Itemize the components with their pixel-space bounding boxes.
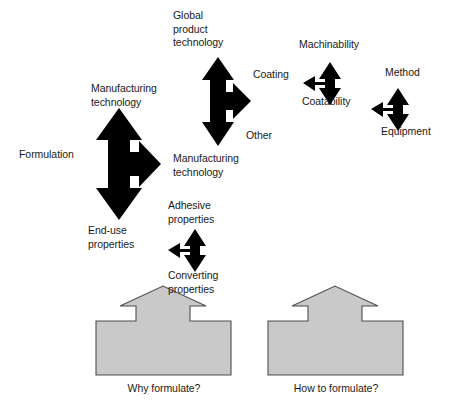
label-machinability: Machinability [299, 38, 389, 52]
label-equipment: Equipment [381, 125, 451, 139]
label-end-use-properties: End-use properties [88, 224, 168, 251]
how-to-formulate-block-shape [268, 286, 403, 375]
manufacturing-technology-tri-arrow-shape [202, 57, 251, 146]
label-global-product-technology: Global product technology [173, 9, 253, 50]
adhesive-converting-tri-arrow-shape [168, 229, 206, 272]
label-manufacturing-technology-center: Manufacturing technology [173, 152, 268, 179]
label-converting-properties: Converting properties [168, 269, 248, 296]
label-formulation: Formulation [19, 148, 99, 162]
why-formulate-block-shape [96, 286, 231, 375]
formulation-tri-arrow-shape [96, 108, 161, 220]
label-why-formulate: Why formulate? [103, 382, 225, 396]
label-coating: Coating [253, 68, 313, 82]
label-method: Method [385, 66, 445, 80]
label-how-to-formulate: How to formulate? [272, 382, 400, 396]
label-other: Other [246, 129, 296, 143]
formulation-diagram: Formulation Manufacturing technology End… [0, 0, 451, 411]
label-coatability: Coatability [302, 95, 382, 109]
label-manufacturing-technology-left: Manufacturing technology [91, 82, 181, 109]
label-adhesive-properties: Adhesive properties [168, 199, 248, 226]
